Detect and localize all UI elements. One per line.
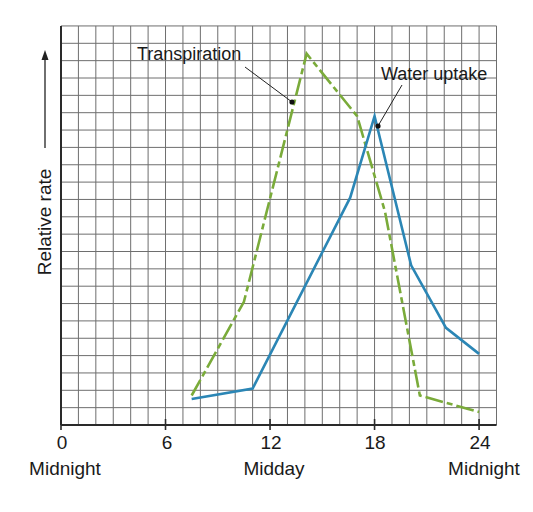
arrow-head-icon	[42, 50, 49, 60]
x-tick-6: 6	[162, 432, 173, 453]
x-sublabel-midnight-end: Midnight	[448, 458, 521, 479]
transpiration-leader	[245, 67, 292, 102]
x-tick-0: 0	[57, 432, 68, 453]
transpiration-label: Transpiration	[137, 44, 241, 64]
water-uptake-leader-dot	[375, 123, 380, 128]
water-uptake-label: Water uptake	[381, 64, 487, 84]
transpiration-leader-dot	[289, 99, 294, 104]
y-axis-label: Relative rate	[34, 169, 55, 276]
x-tick-12: 12	[260, 432, 281, 453]
y-axis-label-group: Relative rate	[34, 50, 55, 275]
x-tick-18: 18	[364, 432, 385, 453]
x-tick-24: 24	[469, 432, 491, 453]
axes	[61, 26, 497, 430]
x-tick-labels: 0 6 12 18 24 Midnight Midday Midnight	[29, 432, 521, 479]
x-sublabel-midday: Midday	[243, 458, 305, 479]
grid	[61, 26, 497, 425]
water-uptake-leader	[378, 85, 402, 126]
line-chart: Relative rate 0 6 12 18 24 Midnight Midd…	[0, 0, 533, 512]
x-sublabel-midnight-start: Midnight	[29, 458, 102, 479]
